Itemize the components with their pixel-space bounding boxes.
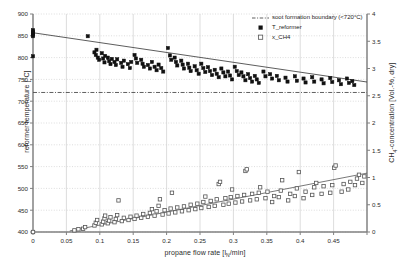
data-point	[236, 194, 239, 197]
data-point	[173, 56, 176, 59]
data-point	[275, 74, 278, 77]
data-point	[189, 70, 192, 73]
data-point	[361, 181, 364, 184]
tick-label-y-right: 0.5	[372, 201, 381, 208]
data-point	[347, 188, 350, 191]
tick-label-y-right: 3	[372, 65, 376, 72]
data-point	[320, 78, 323, 81]
data-point	[142, 212, 145, 215]
data-point	[264, 197, 267, 200]
data-point	[77, 228, 80, 231]
data-point	[161, 213, 164, 216]
data-point	[295, 79, 298, 82]
data-point	[180, 210, 183, 213]
data-point	[313, 80, 316, 83]
data-point	[304, 81, 307, 84]
data-point	[357, 173, 360, 176]
data-point	[114, 63, 117, 66]
scatter-plot: 40045050055060065070075080085090000.511.…	[0, 0, 410, 263]
data-point	[293, 194, 296, 197]
data-point	[244, 79, 247, 82]
data-point	[31, 230, 34, 233]
data-point	[86, 35, 89, 38]
data-point	[234, 201, 237, 204]
data-point	[228, 74, 231, 77]
data-point	[251, 80, 254, 83]
data-point	[288, 192, 291, 195]
tick-label-x: 0.05	[60, 237, 73, 244]
data-point	[230, 188, 233, 191]
data-point	[157, 204, 160, 207]
data-point	[210, 73, 213, 76]
data-point	[174, 211, 177, 214]
data-point	[115, 213, 118, 216]
data-point	[277, 79, 280, 82]
tick-label-y-right: 1.5	[372, 147, 381, 154]
y-axis-right-title-tail: -concentration [Vol.-%, dry]	[388, 63, 395, 150]
tick-label-x: 0.2	[162, 237, 171, 244]
data-point	[116, 58, 119, 61]
data-point	[213, 68, 216, 71]
data-point	[240, 71, 243, 74]
data-point	[158, 198, 161, 201]
data-point	[258, 186, 261, 189]
data-point	[204, 195, 207, 198]
data-point	[202, 66, 205, 69]
data-point	[240, 200, 243, 203]
data-point	[182, 205, 185, 208]
data-point	[311, 76, 314, 79]
x-axis-title-main: propane flow rate [l	[165, 249, 227, 256]
data-point	[322, 82, 325, 85]
tick-label-y-right: 1	[372, 174, 376, 181]
tick-label-y-left: 450	[18, 207, 29, 214]
data-point	[122, 59, 125, 62]
data-point	[304, 190, 307, 193]
data-point	[302, 197, 305, 200]
data-point	[213, 204, 216, 207]
data-point	[188, 66, 191, 69]
data-point	[262, 70, 265, 73]
y-axis-right-title-main: CH	[388, 152, 395, 162]
data-point	[339, 83, 342, 86]
data-point	[277, 195, 280, 198]
data-point	[141, 62, 144, 65]
y-axis-right-title-sub: 4	[392, 150, 398, 153]
data-point	[126, 63, 129, 66]
data-point	[186, 62, 189, 65]
data-point	[353, 183, 356, 186]
tick-label-x: 0	[31, 237, 35, 244]
data-point	[302, 77, 305, 80]
tick-label-x: 0.3	[229, 237, 238, 244]
data-point	[174, 60, 177, 63]
data-point	[106, 56, 109, 59]
data-point	[264, 75, 267, 78]
data-point	[196, 202, 199, 205]
data-point	[224, 197, 227, 200]
data-point	[176, 64, 179, 67]
data-point	[246, 73, 249, 76]
data-point	[227, 202, 230, 205]
y-axis-left-title: reformer temperature [°C]	[23, 37, 30, 187]
data-point	[200, 62, 203, 65]
data-point	[176, 206, 179, 209]
data-point	[168, 54, 171, 57]
y-axis-right-title: CH4-concentration [Vol.-%, dry]	[388, 38, 397, 188]
data-point	[250, 192, 253, 195]
data-point	[257, 191, 260, 194]
data-point	[347, 81, 350, 84]
data-point	[351, 80, 354, 83]
data-point	[353, 83, 356, 86]
data-point	[233, 65, 236, 68]
data-point	[253, 74, 256, 77]
data-point	[245, 168, 248, 171]
data-point	[249, 76, 252, 79]
data-point	[157, 63, 160, 66]
data-point	[95, 218, 98, 221]
tick-label-x: 0.45	[328, 237, 341, 244]
data-point	[315, 181, 318, 184]
data-point	[349, 180, 352, 183]
data-point	[195, 69, 198, 72]
data-point	[257, 81, 260, 84]
legend-label-t-reformer: T_reformer	[272, 24, 302, 30]
data-point	[313, 186, 316, 189]
